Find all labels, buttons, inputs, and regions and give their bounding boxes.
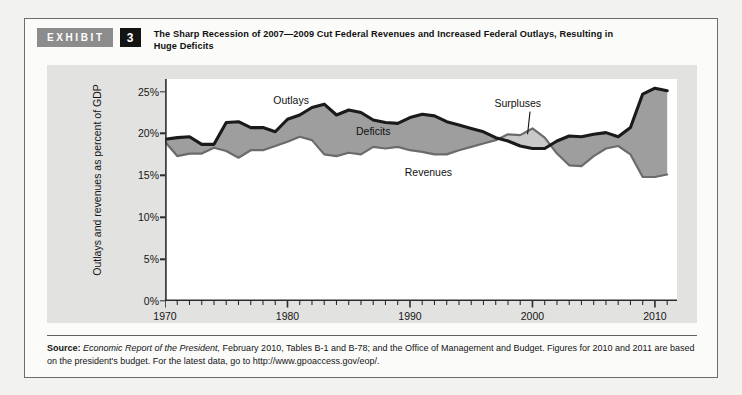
y-tick-label: 25%	[138, 86, 159, 98]
y-tick-label: 0%	[144, 295, 159, 307]
y-tick-label: 20%	[138, 127, 159, 139]
x-tick-label: 1980	[276, 310, 299, 322]
chart-panel: Outlays and revenues as percent of GDP 0…	[47, 65, 697, 323]
source-divider	[47, 335, 697, 336]
annotation-deficits: Deficits	[356, 125, 390, 137]
plot-area: Outlays and revenues as percent of GDP 0…	[165, 79, 677, 301]
annotation-revenues: Revenues	[405, 166, 452, 178]
x-tick-label: 1970	[153, 310, 176, 322]
source-label: Source:	[47, 343, 81, 353]
x-tick-label: 2000	[521, 310, 544, 322]
y-tick-label: 15%	[138, 169, 159, 181]
y-tick-label: 5%	[144, 253, 159, 265]
annotation-surpluses: Surpluses	[494, 97, 541, 109]
x-tick-label: 1990	[398, 310, 421, 322]
annotation-outlays: Outlays	[273, 94, 309, 106]
source-publication: Economic Report of the President,	[83, 343, 220, 353]
y-axis-title: Outlays and revenues as percent of GDP	[91, 60, 103, 300]
x-tick-label: 2010	[643, 310, 666, 322]
exhibit-title: The Sharp Recession of 2007—2009 Cut Fed…	[154, 28, 624, 53]
exhibit-header: EXHIBIT 3 The Sharp Recession of 2007—20…	[25, 19, 717, 65]
area-chart-graphic	[165, 77, 677, 309]
exhibit-number-badge: 3	[120, 28, 141, 47]
exhibit-tag-label: EXHIBIT	[37, 28, 113, 47]
source-note: Source: Economic Report of the President…	[47, 342, 701, 367]
exhibit-container: EXHIBIT 3 The Sharp Recession of 2007—20…	[24, 18, 718, 378]
y-tick-label: 10%	[138, 211, 159, 223]
